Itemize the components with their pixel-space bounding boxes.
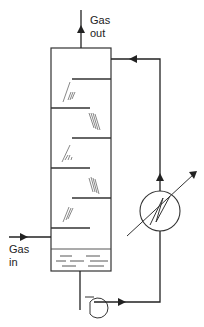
liquid-sump — [51, 249, 111, 266]
recycle-arrow-top — [129, 55, 137, 63]
pump-icon — [85, 297, 108, 318]
gas-out-pipe — [77, 10, 85, 48]
process-diagram — [0, 0, 204, 327]
recycle-arrow-bottom — [118, 298, 126, 306]
gas-out-label-line1: Gas — [90, 14, 110, 27]
liquid-flow-marks — [62, 82, 100, 222]
column-shell — [51, 48, 111, 271]
gas-in-label-line1: Gas — [9, 243, 29, 256]
gas-in-label-line2: in — [9, 256, 29, 269]
gas-in-pipe — [9, 233, 51, 241]
gas-out-label-line2: out — [90, 27, 110, 40]
gas-out-label: Gas out — [90, 14, 110, 40]
trays — [51, 79, 111, 228]
gas-in-label: Gas in — [9, 243, 29, 269]
recycle-arrow-up — [156, 173, 164, 181]
